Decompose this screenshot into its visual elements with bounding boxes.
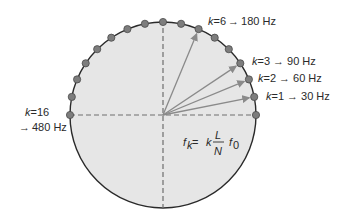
svg-text:k: k [206,136,212,148]
sample-dot [108,34,115,41]
svg-text:N: N [214,145,222,157]
sample-dot [225,46,232,53]
sample-dot [252,111,259,118]
sample-dot [68,93,75,100]
label-k2: k=2→60 Hz [258,72,322,84]
sample-dot [245,76,252,83]
label-k16: k=16 [25,106,49,118]
sample-dot [211,34,218,41]
sample-dot [159,18,166,25]
sample-dot [178,20,185,27]
sample-dot [66,111,73,118]
sample-dot [195,26,202,33]
sample-dot [74,76,81,83]
svg-text:0: 0 [233,139,239,151]
sample-dot [251,93,258,100]
label-k1: k=1→30 Hz [266,90,330,102]
label-k6: k=6→180 Hz [208,15,276,27]
frequency-circle-diagram: k=6→180 Hz k=3→90 Hz k=2→60 Hz k=1→30 Hz… [0,0,339,221]
label-k16-freq: →480 Hz [19,121,67,133]
sample-dot [94,46,101,53]
sample-dot [124,26,131,33]
svg-text:L: L [215,129,221,141]
label-k3: k=3→90 Hz [252,55,316,67]
sample-dot [141,20,148,27]
sample-dot [82,60,89,67]
svg-text:=: = [192,136,198,148]
sample-dot [237,60,244,67]
